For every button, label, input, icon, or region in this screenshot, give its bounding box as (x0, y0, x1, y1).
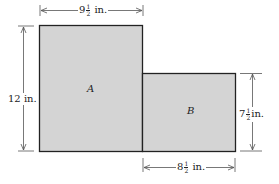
dim-top-fraction: 12 (86, 4, 90, 17)
label-b: B (187, 105, 194, 116)
dim-top-unit: in. (94, 4, 107, 15)
dim-top-whole: 9 (79, 4, 85, 15)
dim-bottom-whole: 8 (177, 161, 183, 172)
dim-bottom-unit: in. (192, 161, 205, 172)
dim-label-left: 12 in. (8, 93, 37, 105)
label-a: A (87, 83, 94, 94)
dim-right-unit: in. (251, 108, 264, 119)
dim-bottom-fraction: 12 (184, 161, 188, 174)
dim-right-whole: 7 (239, 108, 245, 119)
dim-right-fraction: 12 (246, 108, 250, 121)
figure-svg (0, 0, 279, 184)
dim-label-right: 712in. (239, 107, 264, 122)
dim-label-top: 912 in. (78, 4, 108, 17)
dim-label-bottom: 812 in. (176, 161, 206, 174)
